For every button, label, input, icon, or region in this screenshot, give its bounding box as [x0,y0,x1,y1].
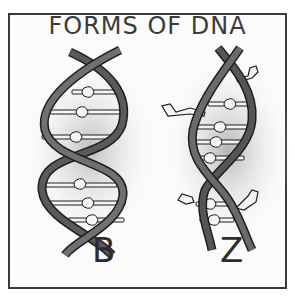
b-form-label: B [92,230,115,270]
figure-title: FORMS OF DNA [0,12,295,40]
z-form-shading [163,55,293,245]
dna-illustration [0,0,295,300]
z-form-label: Z [220,230,243,270]
